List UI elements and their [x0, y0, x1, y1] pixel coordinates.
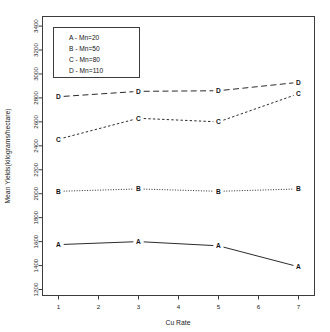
- y-tick-label: 2200: [32, 162, 39, 176]
- series-A-segment: [144, 242, 214, 246]
- series-D-segment: [144, 91, 214, 92]
- x-axis-ticks: 1234567: [57, 296, 301, 310]
- y-tick-label: 1400: [32, 258, 39, 272]
- x-axis-title: Cu Rate: [166, 319, 191, 326]
- series-B-segment: [224, 189, 294, 191]
- series-C-segment: [64, 120, 134, 138]
- x-tick-label: 2: [97, 303, 101, 310]
- x-tick-label: 1: [57, 303, 61, 310]
- point-label-D-x7: D: [296, 79, 301, 86]
- y-tick-label: 3000: [32, 67, 39, 81]
- x-tick-label: 5: [217, 303, 221, 310]
- point-label-B-x3: B: [136, 185, 141, 192]
- series-C-segment: [223, 95, 293, 120]
- point-label-D-x1: D: [56, 93, 61, 100]
- point-label-B-x5: B: [216, 188, 221, 195]
- y-axis-ticks: 1200140016001800200022002400260028003000…: [32, 19, 43, 297]
- legend-entry-0: A - Mn=20: [69, 34, 100, 41]
- point-label-D-x5: D: [216, 87, 221, 94]
- y-tick-label: 1600: [32, 234, 39, 248]
- data-point-letter-labels: AAAABBBBCCCCDDDD: [56, 79, 301, 270]
- point-label-D-x3: D: [136, 88, 141, 95]
- point-label-C-x5: C: [216, 118, 221, 125]
- series-B-segment: [64, 189, 134, 191]
- series-C-segment: [144, 119, 214, 122]
- point-label-B-x1: B: [56, 188, 61, 195]
- chart-legend: A - Mn=20B - Mn=50C - Mn=80D - Mn=110: [54, 28, 140, 78]
- point-label-A-x5: A: [216, 242, 221, 249]
- x-tick-label: 7: [297, 303, 301, 310]
- y-tick-label: 2400: [32, 138, 39, 152]
- chart-container: 1200140016001800200022002400260028003000…: [0, 0, 330, 332]
- x-tick-label: 6: [257, 303, 261, 310]
- series-D-segment: [64, 92, 134, 97]
- point-label-B-x7: B: [296, 185, 301, 192]
- line-chart: 1200140016001800200022002400260028003000…: [0, 0, 330, 332]
- y-tick-label: 1800: [32, 210, 39, 224]
- point-label-C-x3: C: [136, 115, 141, 122]
- point-label-A-x1: A: [56, 241, 61, 248]
- y-tick-label: 2800: [32, 90, 39, 104]
- point-label-A-x7: A: [296, 263, 301, 270]
- x-tick-label: 3: [137, 303, 141, 310]
- data-series-lines: [64, 83, 294, 266]
- series-B-segment: [144, 189, 214, 191]
- point-label-A-x3: A: [136, 238, 141, 245]
- y-tick-label: 2600: [32, 114, 39, 128]
- y-tick-label: 1200: [32, 282, 39, 296]
- x-tick-label: 4: [177, 303, 181, 310]
- legend-entry-2: C - Mn=80: [69, 56, 100, 63]
- y-tick-label: 2000: [32, 186, 39, 200]
- point-label-C-x1: C: [56, 136, 61, 143]
- y-axis-title: Mean Yields(kilograms/hectare): [4, 108, 12, 203]
- point-label-C-x7: C: [296, 90, 301, 97]
- series-D-segment: [224, 83, 294, 90]
- series-A-segment: [64, 242, 134, 245]
- legend-entry-3: D - Mn=110: [69, 67, 103, 74]
- y-tick-label: 3200: [32, 43, 39, 57]
- y-tick-label: 3400: [32, 19, 39, 33]
- legend-entry-1: B - Mn=50: [69, 45, 100, 52]
- series-A-segment: [224, 247, 294, 265]
